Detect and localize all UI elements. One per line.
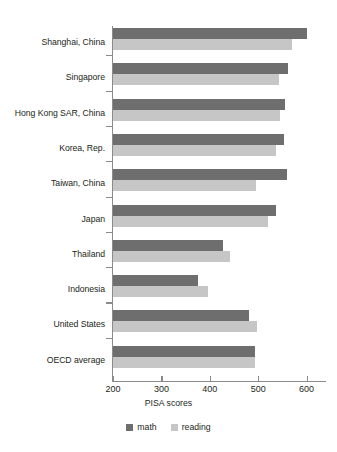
category-label-singapore: Singapore — [0, 72, 105, 82]
y-axis-tick — [106, 302, 112, 303]
category-label-united-states: United States — [0, 319, 105, 329]
legend-item-math: math — [126, 422, 156, 432]
x-axis-tick — [161, 376, 162, 382]
x-axis-tick — [258, 376, 259, 382]
x-axis-tick — [210, 376, 211, 382]
category-label-japan: Japan — [0, 214, 105, 224]
bars-group — [113, 63, 288, 85]
legend-swatch-reading-icon — [171, 424, 178, 431]
x-axis-tick — [113, 376, 114, 382]
y-axis-tick — [106, 91, 112, 92]
bar-math-hong-kong-sar-china — [113, 99, 285, 110]
bar-math-korea-rep — [113, 134, 284, 145]
legend-label-math: math — [137, 422, 156, 432]
bars-group — [113, 240, 230, 262]
x-axis-line — [112, 381, 326, 382]
bar-reading-thailand — [113, 251, 230, 262]
category-label-thailand: Thailand — [0, 249, 105, 259]
category-label-hong-kong-sar-china: Hong Kong SAR, China — [0, 108, 105, 118]
y-axis-tick — [106, 55, 112, 56]
category-label-indonesia: Indonesia — [0, 284, 105, 294]
y-axis-tick — [106, 161, 112, 162]
category-label-oecd-average: OECD average — [0, 355, 105, 365]
y-axis-tick — [106, 267, 112, 268]
bar-math-japan — [113, 205, 276, 216]
bar-reading-singapore — [113, 74, 279, 85]
plot-area: Shanghai, ChinaSingaporeHong Kong SAR, C… — [0, 0, 337, 452]
x-axis-tick-label: 200 — [105, 384, 120, 394]
bar-reading-united-states — [113, 321, 257, 332]
y-axis-tick — [106, 126, 112, 127]
y-axis-tick — [106, 338, 112, 339]
chart-legend: math reading — [0, 422, 337, 432]
bar-math-united-states — [113, 310, 249, 321]
pisa-scores-bar-chart: Shanghai, ChinaSingaporeHong Kong SAR, C… — [0, 0, 337, 452]
bars-group — [113, 134, 284, 156]
bar-reading-indonesia — [113, 286, 208, 297]
bar-reading-oecd-average — [113, 357, 255, 368]
bars-group — [113, 169, 287, 191]
bars-group — [113, 99, 285, 121]
bars-group — [113, 28, 307, 50]
bar-math-oecd-average — [113, 346, 255, 357]
bar-reading-japan — [113, 216, 268, 227]
bar-math-singapore — [113, 63, 288, 74]
category-label-shanghai-china: Shanghai, China — [0, 37, 105, 47]
x-axis-tick-label: 300 — [154, 384, 169, 394]
x-axis-title: PISA scores — [0, 398, 337, 408]
legend-swatch-math-icon — [126, 424, 133, 431]
legend-label-reading: reading — [182, 422, 211, 432]
bar-reading-taiwan-china — [113, 180, 256, 191]
bar-reading-korea-rep — [113, 145, 276, 156]
bar-math-indonesia — [113, 275, 198, 286]
bars-group — [113, 346, 255, 368]
x-axis-tick-label: 600 — [299, 384, 314, 394]
bars-group — [113, 310, 257, 332]
bar-reading-hong-kong-sar-china — [113, 110, 280, 121]
bar-reading-shanghai-china — [113, 39, 292, 50]
x-axis-tick-label: 400 — [202, 384, 217, 394]
bars-group — [113, 275, 208, 297]
bar-math-shanghai-china — [113, 28, 307, 39]
y-axis-tick — [106, 197, 112, 198]
x-axis-tick — [307, 376, 308, 382]
bar-math-thailand — [113, 240, 223, 251]
bars-group — [113, 205, 276, 227]
x-axis-tick-label: 500 — [251, 384, 266, 394]
bar-math-taiwan-china — [113, 169, 287, 180]
legend-item-reading: reading — [171, 422, 211, 432]
y-axis-tick — [106, 232, 112, 233]
category-label-taiwan-china: Taiwan, China — [0, 178, 105, 188]
category-label-korea-rep: Korea, Rep. — [0, 143, 105, 153]
